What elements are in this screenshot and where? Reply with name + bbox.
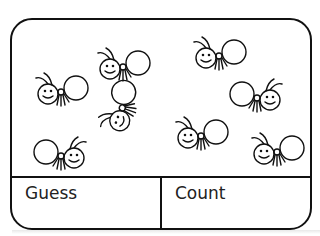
- ant-icon: [30, 134, 88, 178]
- ant-icon: [192, 34, 250, 78]
- ant-icon: [34, 70, 92, 114]
- ant-icon: [174, 114, 232, 158]
- guess-label: Guess: [25, 183, 77, 203]
- count-box[interactable]: Count: [160, 178, 310, 230]
- count-label: Count: [175, 183, 226, 203]
- guess-box[interactable]: Guess: [12, 178, 160, 230]
- ant-field: [12, 20, 310, 176]
- ant-icon: [226, 76, 284, 120]
- card-shadow: [12, 230, 320, 234]
- answer-row: Guess Count: [12, 176, 310, 230]
- counting-card: Guess Count: [10, 18, 312, 230]
- ant-icon: [250, 130, 308, 174]
